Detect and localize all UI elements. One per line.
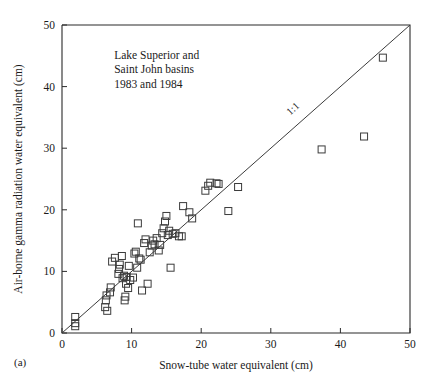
x-tick-label-50: 50 — [404, 338, 416, 350]
data-point — [318, 146, 325, 153]
y-tick-label-10: 10 — [44, 265, 56, 277]
data-point — [144, 280, 151, 287]
figure-panel-a: 0102030405001020304050 Snow-tube water e… — [0, 0, 440, 389]
y-tick-label-20: 20 — [44, 204, 56, 216]
y-tick-label-40: 40 — [44, 81, 56, 93]
y-tick-label-30: 30 — [44, 142, 56, 154]
dataset-caption-line-1: Lake Superior and — [114, 49, 199, 62]
data-point — [235, 184, 242, 191]
data-markers — [72, 54, 387, 330]
data-point — [202, 187, 209, 194]
panel-label: (a) — [14, 356, 26, 368]
x-tick-label-0: 0 — [59, 338, 65, 350]
x-tick-label-10: 10 — [126, 338, 138, 350]
x-tick-label-30: 30 — [265, 338, 277, 350]
y-tick-label-0: 0 — [49, 327, 55, 339]
annotations: Lake Superior andSaint John basins1983 a… — [114, 49, 301, 117]
data-point — [134, 264, 141, 271]
scatter-plot: 0102030405001020304050 Snow-tube water e… — [0, 0, 440, 389]
data-point — [125, 262, 132, 269]
data-point — [225, 208, 232, 215]
y-axis-title: Air-borne gamma radiation water equivale… — [12, 64, 25, 294]
dataset-caption-line-2: Saint John basins — [114, 63, 194, 75]
data-point — [361, 133, 368, 140]
data-point — [125, 285, 132, 292]
x-tick-label-20: 20 — [195, 338, 207, 350]
data-point — [118, 253, 125, 260]
x-tick-label-40: 40 — [335, 338, 347, 350]
data-point — [379, 54, 386, 61]
x-axis-title: Snow-tube water equivalent (cm) — [159, 359, 313, 372]
dataset-caption-line-3: 1983 and 1984 — [114, 78, 183, 90]
data-point — [139, 287, 146, 294]
y-tick-label-50: 50 — [44, 19, 56, 31]
data-point — [167, 264, 174, 271]
reference-line-label: 1:1 — [284, 100, 301, 117]
data-point — [134, 220, 141, 227]
